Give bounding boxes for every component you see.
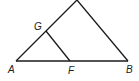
segment-apex-b bbox=[77, 0, 128, 61]
triangle-diagram: A F B G bbox=[0, 0, 139, 81]
segment-g-f bbox=[46, 31, 70, 61]
segment-a-apex bbox=[16, 0, 77, 61]
label-f: F bbox=[68, 65, 75, 76]
label-b: B bbox=[126, 64, 133, 75]
label-a: A bbox=[7, 64, 15, 75]
label-g: G bbox=[34, 21, 42, 32]
